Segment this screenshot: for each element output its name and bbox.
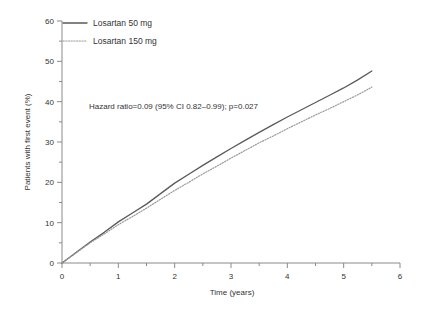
y-tick-label: 30	[45, 138, 54, 147]
y-tick-label: 10	[45, 219, 54, 228]
x-tick-label: 6	[398, 272, 403, 281]
x-axis-title: Time (years)	[210, 288, 255, 297]
chart-legend: Losartan 50 mg Losartan 150 mg	[63, 18, 157, 46]
y-tick-label: 40	[45, 98, 54, 107]
legend-label-losartan-150: Losartan 150 mg	[93, 36, 157, 46]
x-tick-label: 3	[229, 272, 234, 281]
y-axis-title: Patients with first event (%)	[23, 93, 32, 190]
x-tick-label: 5	[341, 272, 346, 281]
series-line-0	[62, 71, 372, 263]
series-line-1	[62, 87, 372, 263]
y-tick-label: 60	[45, 17, 54, 26]
y-tick-label: 50	[45, 57, 54, 66]
legend-label-losartan-50: Losartan 50 mg	[93, 18, 152, 28]
x-tick-label: 2	[172, 272, 177, 281]
x-tick-label: 0	[60, 272, 65, 281]
hazard-ratio-annotation: Hazard ratio=0.09 (95% CI 0.82–0.99); p=…	[89, 102, 259, 111]
y-axis: 0102030405060	[45, 17, 62, 268]
chart-canvas: 0102030405060 0123456 Patients with firs…	[0, 0, 434, 312]
x-tick-label: 1	[116, 272, 121, 281]
y-tick-label: 20	[45, 178, 54, 187]
series-lines	[62, 71, 372, 263]
x-tick-label: 4	[285, 272, 290, 281]
y-tick-label: 0	[50, 259, 55, 268]
x-axis: 0123456	[60, 263, 403, 281]
kaplan-meier-chart: 0102030405060 0123456 Patients with firs…	[0, 0, 434, 312]
